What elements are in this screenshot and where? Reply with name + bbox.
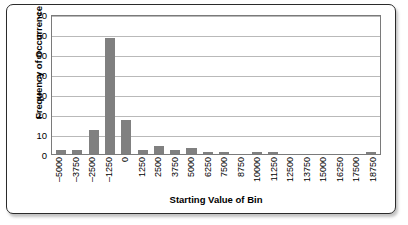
bar-slot [346, 16, 362, 154]
bar [56, 150, 66, 154]
y-tick-label: 60 [21, 30, 47, 41]
bar [219, 152, 229, 154]
x-tick-label: 11250 [269, 157, 279, 181]
bar-slot [53, 16, 69, 154]
bar [89, 130, 99, 154]
y-tick-label: 0 [21, 150, 47, 161]
x-tick-label: 17500 [351, 157, 361, 182]
bar [72, 150, 82, 154]
x-tick-slot: 2500 [150, 157, 167, 197]
x-tick-slot: 18750 [365, 157, 382, 197]
bar-slot [69, 16, 85, 154]
x-axis-title: Starting Value of Bin [51, 194, 381, 205]
plot-area [51, 15, 381, 155]
x-tick-label: 8750 [236, 157, 246, 177]
x-tick-slot: –2500 [84, 157, 101, 197]
x-tick-slot: 7500 [216, 157, 233, 197]
x-tick-slot: 3750 [167, 157, 184, 197]
x-tick-label: –3750 [71, 157, 81, 182]
x-axis-tick-labels: –5000–3750–2500–125001250250037505000625… [51, 157, 381, 197]
y-tick-label: 10 [21, 130, 47, 141]
bar-slot [330, 16, 346, 154]
x-tick-label: 5000 [186, 157, 196, 177]
bar [121, 120, 131, 154]
bar-slot [102, 16, 118, 154]
bar-slot [249, 16, 265, 154]
bar-slot [183, 16, 199, 154]
y-tick-label: 40 [21, 70, 47, 81]
x-tick-slot: –3750 [68, 157, 85, 197]
y-axis-tick-labels: 010203040506070 [21, 15, 47, 155]
bar [154, 146, 164, 154]
x-tick-slot: 1250 [134, 157, 151, 197]
bar-slot [232, 16, 248, 154]
x-tick-label: 12500 [285, 157, 295, 182]
x-tick-slot: 5000 [183, 157, 200, 197]
x-tick-label: 13750 [302, 157, 312, 182]
x-tick-label: 1250 [137, 157, 147, 177]
x-tick-slot: 13750 [299, 157, 316, 197]
bar-slot [363, 16, 379, 154]
x-tick-label: –2500 [87, 157, 97, 182]
x-tick-slot: –5000 [51, 157, 68, 197]
x-tick-slot: 11250 [266, 157, 283, 197]
x-tick-slot: 15000 [315, 157, 332, 197]
bar-slot [200, 16, 216, 154]
bar-slot [314, 16, 330, 154]
bar-slot [281, 16, 297, 154]
x-tick-label: 3750 [170, 157, 180, 177]
bar [203, 152, 213, 154]
bar [252, 152, 262, 154]
y-tick-label: 50 [21, 50, 47, 61]
y-tick-label: 30 [21, 90, 47, 101]
bar [366, 152, 376, 154]
x-tick-slot: 8750 [233, 157, 250, 197]
x-tick-label: 7500 [219, 157, 229, 177]
x-tick-label: 2500 [153, 157, 163, 177]
x-tick-label: 0 [120, 157, 130, 162]
x-tick-slot: 16250 [332, 157, 349, 197]
bar-slot [134, 16, 150, 154]
bar-slot [151, 16, 167, 154]
x-tick-label: 15000 [318, 157, 328, 182]
bar-slot [86, 16, 102, 154]
x-tick-slot: 0 [117, 157, 134, 197]
bar-slot [118, 16, 134, 154]
y-tick-label: 20 [21, 110, 47, 121]
x-tick-label: 16250 [335, 157, 345, 182]
bar [138, 150, 148, 154]
bar [186, 148, 196, 154]
chart-figure: Frequency of Occurrence 010203040506070 … [6, 4, 396, 214]
x-tick-label: 18750 [368, 157, 378, 182]
bar-slot [297, 16, 313, 154]
bar-series [52, 16, 380, 154]
y-tick-label: 70 [21, 10, 47, 21]
x-tick-label: –5000 [54, 157, 64, 182]
x-tick-slot: 17500 [348, 157, 365, 197]
x-tick-label: 10000 [252, 157, 262, 182]
bar-slot [216, 16, 232, 154]
x-tick-label: 6250 [203, 157, 213, 177]
bar [170, 150, 180, 154]
x-tick-slot: 10000 [249, 157, 266, 197]
x-tick-label: –1250 [104, 157, 114, 182]
bar-slot [265, 16, 281, 154]
x-tick-slot: 12500 [282, 157, 299, 197]
bar-slot [167, 16, 183, 154]
bar [268, 152, 278, 154]
bar [105, 38, 115, 154]
x-tick-slot: –1250 [101, 157, 118, 197]
x-tick-slot: 6250 [200, 157, 217, 197]
